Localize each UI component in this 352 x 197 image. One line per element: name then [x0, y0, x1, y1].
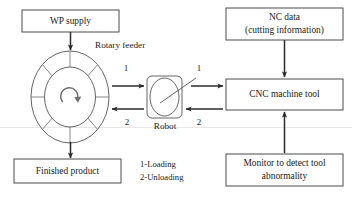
rotary-feeder-label: Rotary feeder: [95, 40, 145, 50]
finished-product-label: Finished product: [36, 166, 100, 176]
flow-number-feeder-to-robot: 1: [124, 63, 129, 73]
nc-data-label-line1: NC data: [269, 12, 301, 22]
flow-number-cnc-to-robot: 2: [197, 117, 202, 127]
robot-label: Robot: [154, 121, 177, 131]
legend: 1-Loading 2-Unloading: [140, 159, 184, 182]
monitor-label-line2: abnormality: [262, 171, 308, 181]
legend-line-loading: 1-Loading: [140, 159, 177, 169]
nc-data-label-line2: (cutting information): [245, 25, 324, 36]
process-flow-diagram: WP supply NC data (cutting information) …: [0, 0, 352, 197]
box-wp-supply: WP supply: [22, 10, 119, 32]
diagram-canvas: WP supply NC data (cutting information) …: [0, 0, 352, 197]
cnc-machine-tool-label: CNC machine tool: [249, 89, 320, 99]
rotation-arrowhead: [74, 97, 81, 103]
legend-line-unloading: 2-Unloading: [140, 172, 184, 182]
flow-number-robot-to-feeder: 2: [125, 117, 130, 127]
box-cnc-machine-tool: CNC machine tool: [226, 79, 343, 110]
robot-shape: Robot: [147, 76, 196, 131]
box-finished-product: Finished product: [14, 159, 121, 183]
wp-supply-label: WP supply: [50, 16, 91, 26]
box-nc-data: NC data (cutting information): [226, 8, 343, 40]
box-monitor: Monitor to detect tool abnormality: [226, 154, 343, 186]
monitor-label-line1: Monitor to detect tool: [243, 158, 325, 168]
flow-number-robot-to-cnc: 1: [197, 63, 202, 73]
